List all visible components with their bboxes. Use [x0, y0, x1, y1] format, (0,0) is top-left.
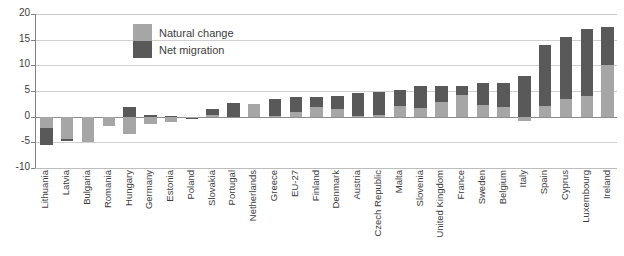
x-axis-label: Romania: [103, 170, 113, 208]
bar-segment-net-migration: [414, 86, 426, 109]
legend-label-natural-change: Natural change: [159, 27, 234, 39]
x-axis-label: Germany: [144, 170, 154, 209]
x-axis-label: Austria: [352, 170, 362, 200]
legend-item-natural-change: Natural change: [133, 24, 333, 41]
y-axis-tick-label: -10: [0, 162, 30, 172]
bar-segment-natural-change: [581, 96, 593, 117]
x-axis-label: Ireland: [602, 170, 612, 199]
bar-group: [477, 14, 489, 168]
bar-segment-natural-change: [61, 117, 73, 140]
bar-group: [40, 14, 52, 168]
bar-segment-net-migration: [144, 115, 156, 117]
bar-segment-net-migration: [227, 103, 239, 116]
x-axis-label: Estonia: [165, 170, 175, 202]
bar-segment-net-migration: [518, 76, 530, 117]
bar-segment-net-migration: [435, 86, 447, 102]
bar-segment-natural-change: [539, 106, 551, 117]
x-axis-label: Finland: [311, 170, 321, 201]
bar-segment-net-migration: [206, 109, 218, 115]
bar-segment-net-migration: [290, 97, 302, 111]
legend-swatch-natural-change-icon: [133, 24, 152, 41]
bar-segment-natural-change: [82, 117, 94, 143]
bar-group: [373, 14, 385, 168]
bar-segment-net-migration: [186, 118, 198, 119]
bar-segment-natural-change: [123, 117, 135, 134]
bar-segment-net-migration: [560, 37, 572, 99]
bar-segment-net-migration: [123, 107, 135, 116]
bar-segment-net-migration: [539, 45, 551, 106]
y-axis-tick-label: 20: [0, 8, 30, 18]
bar-segment-natural-change: [248, 104, 260, 117]
bar-segment-natural-change: [477, 105, 489, 116]
bar-group: [456, 14, 468, 168]
x-axis-label: Sweden: [477, 170, 487, 204]
bar-group: [581, 14, 593, 168]
x-axis-label: Slovakia: [207, 170, 217, 206]
bar-group: [61, 14, 73, 168]
bar-segment-net-migration: [352, 93, 364, 116]
x-axis-label: Bulgaria: [82, 170, 92, 205]
bar-group: [601, 14, 613, 168]
bar-segment-net-migration: [373, 92, 385, 115]
bar-group: [518, 14, 530, 168]
y-axis-tick-label: 0: [0, 111, 30, 121]
x-axis-label: Hungary: [124, 170, 134, 206]
bar-segment-natural-change: [290, 112, 302, 117]
x-axis-label: Luxembourg: [581, 170, 591, 223]
bar-segment-natural-change: [206, 115, 218, 117]
bar-segment-natural-change: [414, 108, 426, 116]
bar-segment-natural-change: [497, 107, 509, 116]
bar-segment-natural-change: [601, 65, 613, 116]
x-axis-label: Italy: [518, 170, 528, 187]
x-axis-label: Lithuania: [40, 170, 50, 209]
bar-segment-natural-change: [165, 117, 177, 122]
x-axis-label: France: [456, 170, 466, 200]
bar-group: [352, 14, 364, 168]
bar-group: [331, 14, 343, 168]
bar-group: [394, 14, 406, 168]
bar-segment-natural-change: [352, 116, 364, 117]
x-axis-labels: LithuaniaLatviaBulgariaRomaniaHungaryGer…: [35, 170, 617, 256]
x-axis-label: Greece: [269, 170, 279, 201]
bar-group: [560, 14, 572, 168]
bar-segment-net-migration: [477, 83, 489, 105]
x-axis-label: Slovenia: [415, 170, 425, 206]
x-axis-baseline: [35, 168, 617, 169]
x-axis-label: Denmark: [331, 170, 341, 209]
y-axis-tick-label: -5: [0, 136, 30, 146]
bar-segment-natural-change: [518, 117, 530, 121]
x-axis-label: Cyprus: [560, 170, 570, 200]
bar-group: [435, 14, 447, 168]
y-axis-tick-label: 15: [0, 34, 30, 44]
bar-segment-net-migration: [61, 139, 73, 141]
x-axis-label: Czech Republic: [373, 170, 383, 237]
bar-segment-net-migration: [581, 29, 593, 96]
bar-segment-net-migration: [601, 27, 613, 66]
legend-item-net-migration: Net migration: [133, 41, 333, 58]
bar-segment-net-migration: [310, 97, 322, 107]
x-axis-label: United Kingdom: [435, 170, 445, 238]
bar-segment-net-migration: [165, 116, 177, 117]
bar-segment-natural-change: [394, 106, 406, 116]
x-axis-label: Poland: [186, 170, 196, 200]
chart-legend: Natural change Net migration: [133, 24, 333, 58]
legend-label-net-migration: Net migration: [159, 44, 224, 56]
x-axis-label: Spain: [539, 170, 549, 194]
x-axis-label: Portugal: [227, 170, 237, 205]
bar-segment-natural-change: [310, 107, 322, 117]
bar-segment-natural-change: [269, 116, 281, 117]
bar-segment-natural-change: [435, 102, 447, 117]
legend-swatch-net-migration-icon: [133, 41, 152, 58]
x-axis-label: Belgium: [498, 170, 508, 204]
bar-group: [497, 14, 509, 168]
y-axis-tick-label: 5: [0, 85, 30, 95]
bar-segment-natural-change: [560, 99, 572, 116]
bar-segment-net-migration: [269, 99, 281, 116]
bar-group: [82, 14, 94, 168]
population-change-bar-chart: 20151050-5-10 Natural change Net migrati…: [0, 0, 624, 256]
bar-segment-natural-change: [144, 117, 156, 125]
bar-segment-net-migration: [331, 96, 343, 109]
bar-group: [539, 14, 551, 168]
bar-segment-net-migration: [394, 90, 406, 106]
bar-group: [103, 14, 115, 168]
